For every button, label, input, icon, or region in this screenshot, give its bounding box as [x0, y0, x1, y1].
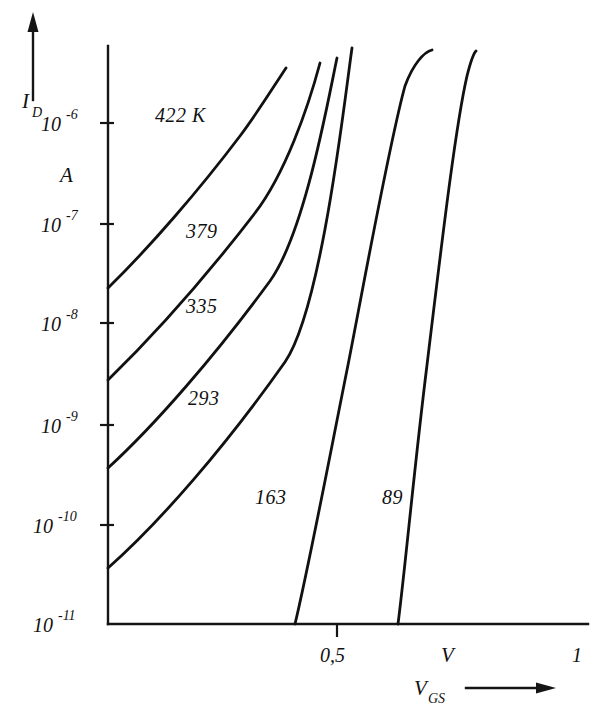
y-tick-mantissa: 10 [41, 214, 61, 236]
curve-label-293k: 293 [188, 387, 220, 409]
y-axis-title-main: I [21, 89, 30, 113]
y-tick-label-1e-10: 10 -10 [33, 509, 77, 537]
y-axis-arrow-icon [28, 12, 39, 100]
y-tick-mantissa: 10 [41, 113, 61, 135]
curve-label-422k: 422 K [155, 104, 207, 126]
y-tick-mantissa: 10 [41, 313, 61, 335]
y-tick-label-1e-6: 10 -6 [41, 107, 78, 135]
y-tick-mantissa: 10 [41, 415, 61, 437]
curve-89k [398, 51, 476, 624]
chart-container: 10 -6 10 -7 10 -8 10 -9 10 -10 10 -11 0,… [0, 0, 604, 718]
y-tick-label-1e-7: 10 -7 [41, 208, 79, 236]
curve-422k [108, 68, 286, 288]
y-axis-title: I D [21, 89, 42, 120]
curve-293k [108, 48, 352, 568]
y-tick-exponent: -6 [66, 107, 78, 122]
y-tick-exponent: -9 [66, 409, 78, 424]
y-tick-exponent: -7 [66, 208, 79, 223]
y-axis-unit-label: A [58, 163, 73, 187]
y-tick-label-1e-11: 10 -11 [33, 608, 76, 636]
curve-label-335k: 335 [185, 295, 218, 317]
y-axis-title-sub: D [31, 105, 42, 120]
x-axis-title: V GS [414, 676, 445, 706]
curve-label-163k: 163 [255, 486, 287, 508]
curve-label-379k: 379 [185, 220, 218, 242]
y-tick-exponent: -10 [58, 509, 77, 524]
x-axis-title-main: V [414, 676, 429, 700]
y-tick-label-1e-8: 10 -8 [41, 307, 78, 335]
curve-label-89k: 89 [382, 486, 403, 508]
curve-163k [295, 50, 432, 624]
transfer-characteristic-chart: 10 -6 10 -7 10 -8 10 -9 10 -10 10 -11 0,… [0, 0, 604, 718]
x-tick-label-0-5: 0,5 [320, 644, 345, 666]
y-tick-exponent: -11 [58, 608, 76, 623]
y-tick-mantissa: 10 [33, 515, 53, 537]
x-axis-arrow-icon [466, 683, 556, 694]
x-tick-label-1: 1 [572, 644, 582, 666]
y-tick-label-1e-9: 10 -9 [41, 409, 78, 437]
x-axis-title-sub: GS [428, 691, 445, 706]
x-axis-unit-label: V [441, 643, 456, 667]
y-tick-mantissa: 10 [33, 614, 53, 636]
y-tick-exponent: -8 [66, 307, 78, 322]
